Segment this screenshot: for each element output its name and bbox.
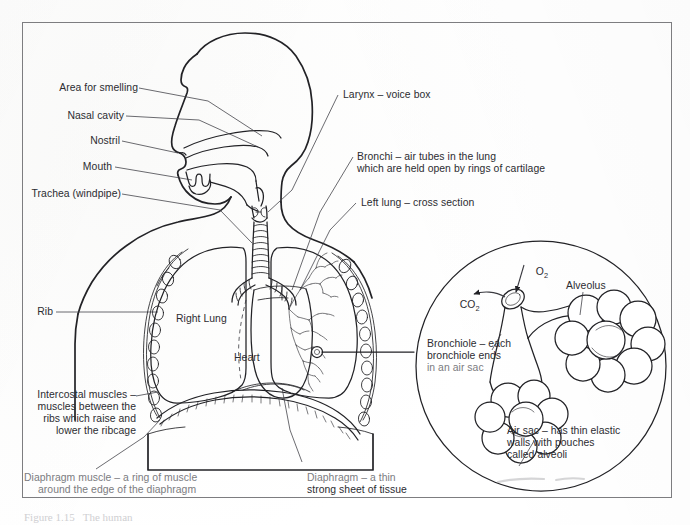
label-bronchi-line1: Bronchi – air tubes in the lung <box>357 151 496 163</box>
label-bronchi-line2: which are held open by rings of cartilag… <box>357 163 545 175</box>
label-nostril: Nostril <box>30 135 120 147</box>
label-diaphragm-muscle-line2: around the edge of the diaphragm <box>38 484 196 496</box>
label-air-sac-line1: Air sac – has thin elastic <box>507 425 620 437</box>
label-mouth: Mouth <box>30 161 112 173</box>
label-nasal-cavity: Nasal cavity <box>30 110 124 122</box>
label-bronchiole-line1: Bronchiole – each <box>427 338 511 350</box>
label-trachea: Trachea (windpipe) <box>22 188 121 200</box>
label-right-lung: Right Lung <box>176 313 227 325</box>
label-bronchiole-line3: in an air sac <box>427 362 484 374</box>
label-diaphragm-line1: Diaphragm – a thin <box>307 472 396 484</box>
carbon-dioxide-subscript: 2 <box>475 304 479 313</box>
label-diaphragm-muscle-line1: Diaphragm muscle – a ring of muscle <box>24 472 197 484</box>
label-carbon-dioxide: CO2 <box>448 287 480 328</box>
oxygen-symbol: O <box>536 266 544 277</box>
oxygen-subscript: 2 <box>544 271 548 280</box>
figure-page: .s{fill:none;stroke:#222226;stroke-linec… <box>0 0 690 525</box>
label-intercostal-line3: ribs which raise and <box>20 413 136 425</box>
label-intercostal-line1: Intercostal muscles – <box>20 389 136 401</box>
label-left-lung: Left lung – cross section <box>361 197 474 209</box>
carbon-dioxide-symbol: CO <box>460 299 476 310</box>
label-intercostal-line4: lower the ribcage <box>20 425 136 437</box>
label-heart: Heart <box>234 352 260 364</box>
label-diaphragm-line2: strong sheet of tissue <box>307 484 407 496</box>
label-air-sac-line3: called alveoli <box>507 449 567 461</box>
label-bronchiole-line2: bronchiole ends <box>427 350 501 362</box>
label-larynx: Larynx – voice box <box>343 89 431 101</box>
figure-caption: Figure 1.15 The human <box>24 511 133 523</box>
label-area-for-smelling: Area for smelling <box>30 82 138 94</box>
label-oxygen: O2 <box>524 254 548 295</box>
label-air-sac-line2: walls with pouches <box>507 437 595 449</box>
label-intercostal-line2: muscles between the <box>20 401 136 413</box>
label-alveolus: Alveolus <box>566 280 606 292</box>
label-rib: Rib <box>20 306 53 318</box>
